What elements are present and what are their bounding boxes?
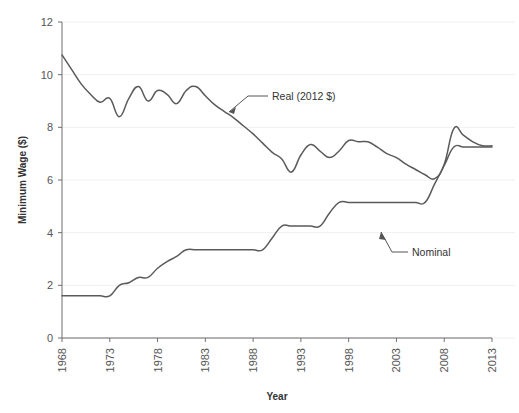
y-tick-label: 6 [47,174,53,186]
x-axis-title: Year [266,391,287,402]
x-tick-label: 2013 [486,348,498,372]
nominal-annotation-label: Nominal [412,246,451,258]
minimum-wage-line-chart: 024681012 196819731978198319881993199820… [0,0,519,413]
series-line-real [62,55,492,179]
y-tick-label: 8 [47,121,53,133]
y-axis-ticks: 024681012 [41,16,62,344]
nominal-annotation-arrow-icon [379,232,386,240]
x-tick-label: 2008 [438,348,450,372]
x-axis-ticks: 1968197319781983198819931998200320082013 [56,338,498,372]
nominal-annotation-leader [381,232,408,252]
x-tick-label: 1983 [199,348,211,372]
y-tick-label: 4 [47,227,53,239]
x-tick-label: 2003 [390,348,402,372]
gridline-group [62,22,515,338]
x-tick-label: 1988 [247,348,259,372]
y-axis-title: Minimum Wage ($) [17,136,28,224]
real-annotation-label: Real (2012 $) [272,90,336,102]
y-tick-label: 0 [47,332,53,344]
x-tick-label: 1978 [152,348,164,372]
y-tick-label: 12 [41,16,53,28]
x-tick-label: 1998 [343,348,355,372]
x-tick-label: 1973 [104,348,116,372]
series-line-nominal [62,145,492,297]
x-tick-label: 1968 [56,348,68,372]
y-tick-label: 10 [41,69,53,81]
x-tick-label: 1993 [295,348,307,372]
y-tick-label: 2 [47,279,53,291]
chart-canvas: 024681012 196819731978198319881993199820… [0,0,519,413]
